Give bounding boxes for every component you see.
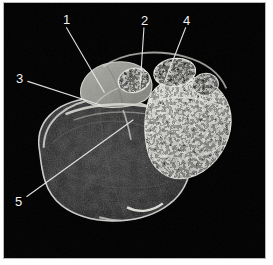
specimen (4, 3, 265, 258)
annotation-label-5: 5 (15, 195, 22, 208)
annotation-label-1: 1 (63, 13, 70, 26)
annotation-label-4: 4 (183, 14, 190, 27)
annotation-label-3: 3 (16, 72, 23, 85)
figure-root: 1 2 3 4 5 (0, 0, 273, 265)
annotation-label-2: 2 (141, 14, 148, 27)
cross-section-image (4, 3, 265, 258)
figure-image-frame: 1 2 3 4 5 (3, 2, 266, 259)
